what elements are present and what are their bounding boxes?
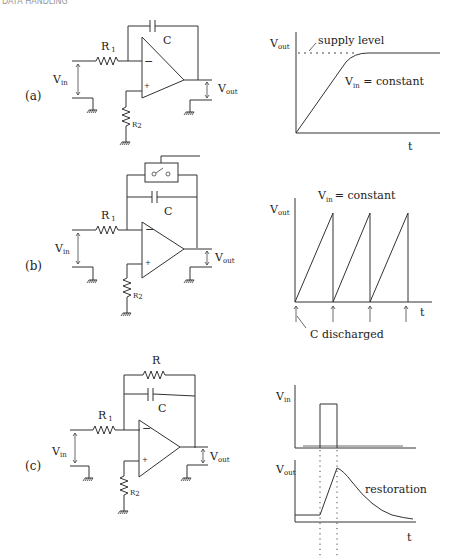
graph-c-vout: restoration t Vout bbox=[275, 450, 427, 556]
r1-resistor bbox=[72, 57, 142, 65]
discharge-arrows bbox=[294, 306, 408, 322]
svg-text:−: − bbox=[145, 223, 154, 236]
svg-text:Vin: Vin bbox=[275, 390, 291, 404]
panel-c: (c) − + R bbox=[25, 354, 427, 556]
svg-text:Vin = constant: Vin = constant bbox=[344, 75, 424, 90]
svg-text:t: t bbox=[407, 531, 412, 544]
reset-switch[interactable] bbox=[145, 163, 178, 182]
svg-text:supply level: supply level bbox=[318, 34, 385, 47]
svg-text:R2: R2 bbox=[132, 121, 142, 130]
svg-text:Vin: Vin bbox=[52, 73, 68, 87]
svg-text:+: + bbox=[142, 456, 148, 464]
svg-text:Vin: Vin bbox=[51, 445, 67, 459]
svg-text:R1: R1 bbox=[101, 209, 116, 223]
r1-resistor bbox=[70, 426, 140, 434]
svg-text:R2: R2 bbox=[133, 292, 143, 301]
svg-text:C: C bbox=[163, 34, 171, 47]
circuit-a: − + R1 C Vin Vout R2 bbox=[52, 20, 238, 145]
svg-text:Vout: Vout bbox=[269, 203, 290, 217]
svg-text:Vin: Vin bbox=[54, 242, 70, 256]
svg-text:restoration: restoration bbox=[365, 483, 427, 496]
svg-text:+: + bbox=[144, 82, 150, 90]
svg-text:t: t bbox=[408, 140, 413, 153]
svg-text:R: R bbox=[152, 354, 161, 367]
graph-c-vin: Vin bbox=[275, 385, 416, 448]
svg-text:Vout: Vout bbox=[269, 37, 290, 51]
circuit-c: − + R1 R C Vin Vout R2 bbox=[51, 354, 230, 514]
graph-b: C discharged t Vout Vin= constant bbox=[269, 189, 432, 341]
panel-b: (b) − + bbox=[25, 156, 432, 341]
svg-text:t: t bbox=[420, 306, 425, 319]
svg-text:Vout: Vout bbox=[214, 251, 235, 265]
svg-text:C: C bbox=[164, 205, 172, 218]
vout-curve bbox=[296, 53, 440, 133]
svg-text:−: − bbox=[144, 55, 153, 68]
svg-text:Vout: Vout bbox=[275, 463, 296, 477]
svg-text:R1: R1 bbox=[101, 40, 116, 54]
r1-resistor bbox=[72, 226, 142, 234]
panel-label-a: (a) bbox=[25, 89, 42, 103]
svg-text:Vout: Vout bbox=[209, 450, 230, 464]
page-header: DATA HANDLING bbox=[2, 0, 68, 6]
panel-label-b: (b) bbox=[25, 259, 42, 273]
panel-label-c: (c) bbox=[25, 459, 41, 473]
svg-text:C discharged: C discharged bbox=[310, 328, 384, 341]
panel-a: (a) − + bbox=[25, 20, 440, 153]
svg-text:R2: R2 bbox=[130, 489, 140, 498]
svg-text:Vin= constant: Vin= constant bbox=[317, 189, 396, 204]
sawtooth-curve bbox=[295, 213, 408, 302]
r2-resistor bbox=[120, 461, 139, 511]
svg-text:−: − bbox=[142, 422, 151, 435]
graph-a: supply level Vout Vin = constant t bbox=[269, 32, 440, 153]
figure-canvas: DATA HANDLING (a) − + bbox=[0, 0, 452, 560]
circuit-b: − + R1 C Vin Vout R2 bbox=[54, 156, 235, 316]
svg-text:R1: R1 bbox=[98, 409, 113, 423]
svg-text:+: + bbox=[145, 259, 151, 267]
svg-text:Vout: Vout bbox=[217, 82, 238, 96]
switch-control-line bbox=[161, 156, 200, 163]
r2-resistor bbox=[122, 91, 142, 142]
r2-resistor bbox=[123, 264, 142, 313]
vin-pulse bbox=[320, 404, 337, 448]
svg-text:C: C bbox=[158, 402, 166, 415]
